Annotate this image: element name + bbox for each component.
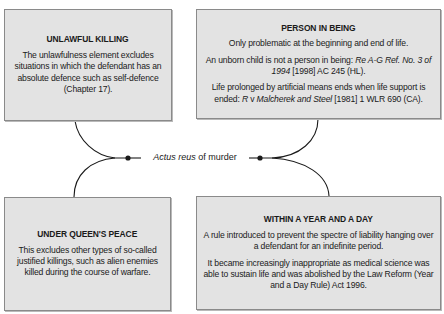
box-para-1: A rule introduced to prevent the spectre…: [203, 230, 434, 253]
box-title: UNLAWFUL KILLING: [47, 34, 129, 45]
box-body: The unlawfulness element excludes situat…: [11, 50, 165, 96]
central-label-rest: of murder: [196, 152, 237, 162]
central-label-italic: Actus reus: [153, 152, 196, 162]
box-title: WITHIN A YEAR AND A DAY: [264, 214, 373, 225]
box-person-in-being: PERSON IN BEING Only problematic at the …: [196, 9, 441, 119]
box-unlawful-killing: UNLAWFUL KILLING The unlawfulness elemen…: [4, 9, 172, 121]
box-within-a-year-and-a-day: WITHIN A YEAR AND A DAY A rule introduce…: [196, 196, 441, 310]
connector-person-in-being: [260, 119, 318, 158]
case-name: Malcherek and Steel: [257, 94, 333, 104]
case-citation: [1981] 1 WLR 690 (CA).: [332, 94, 423, 104]
box-body: This excludes other types of so-called j…: [11, 245, 164, 279]
box-title: PERSON IN BEING: [281, 23, 355, 34]
box-para-1: Only problematic at the beginning and en…: [229, 38, 408, 49]
connector-year-and-day: [272, 158, 329, 196]
connector-unlawful-killing: [75, 121, 128, 158]
box-para-3: Life prolonged by artificial means ends …: [203, 82, 434, 105]
central-concept-label: Actus reus of murder: [141, 151, 249, 164]
case-versus: v: [248, 94, 257, 104]
box-under-queens-peace: UNDER QUEEN'S PEACE This excludes other …: [4, 197, 171, 311]
box-para-2: An unborn child is not a person in being…: [203, 55, 434, 78]
box-title: UNDER QUEEN'S PEACE: [38, 229, 138, 240]
para-text: An unborn child is not a person in being…: [206, 55, 355, 65]
junction-dot-left: [125, 155, 130, 160]
junction-dot-right: [257, 155, 262, 160]
box-para-2: It became increasingly inappropriate as …: [203, 258, 434, 292]
connector-queens-peace: [74, 158, 115, 197]
case-citation: [1998] AC 245 (HL).: [290, 66, 365, 76]
